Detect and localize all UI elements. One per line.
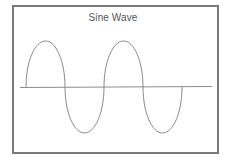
x-axis-line <box>20 87 212 88</box>
sine-plot <box>0 0 226 167</box>
